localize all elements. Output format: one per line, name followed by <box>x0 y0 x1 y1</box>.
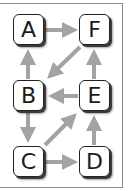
node-a-label: A <box>21 19 36 41</box>
edge-c-to-e <box>45 116 74 145</box>
node-d: D <box>79 146 110 177</box>
node-c: C <box>13 146 44 177</box>
node-d-label: D <box>86 151 103 173</box>
edge-f-to-b <box>50 47 80 76</box>
node-f-label: F <box>88 19 101 41</box>
node-a: A <box>13 14 44 45</box>
node-f: F <box>79 14 110 45</box>
node-b: B <box>13 80 44 111</box>
node-c-label: C <box>21 151 36 173</box>
node-e: E <box>79 80 110 111</box>
node-b-label: B <box>21 85 36 107</box>
node-e-label: E <box>88 85 102 107</box>
